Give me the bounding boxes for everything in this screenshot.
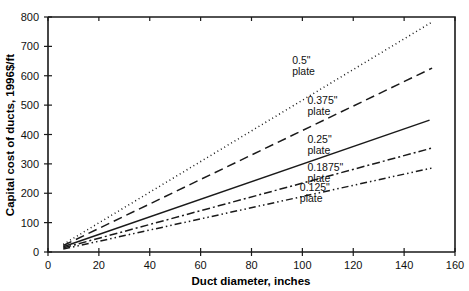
y-tick-label-600: 600 <box>21 70 39 82</box>
x-axis-title: Duct diameter, inches <box>192 275 311 287</box>
series-line-1 <box>63 68 432 245</box>
series-label-0-line-1: plate <box>292 65 315 77</box>
series-line-3 <box>63 148 432 248</box>
x-tick-label-100: 100 <box>293 259 311 271</box>
x-tick-label-120: 120 <box>344 259 362 271</box>
series-label-2-line-1: plate <box>307 144 330 156</box>
y-tick-label-200: 200 <box>21 187 39 199</box>
x-tick-label-140: 140 <box>395 259 413 271</box>
y-tick-label-400: 400 <box>21 129 39 141</box>
y-axis-title: Capital cost of ducts, 1996$/ft <box>4 54 16 216</box>
y-tick-label-700: 700 <box>21 40 39 52</box>
y-tick-label-100: 100 <box>21 217 39 229</box>
series-lines <box>63 22 432 249</box>
series-labels: 0.5"plate0.375"plate0.25"plate0.1875"pla… <box>292 54 343 204</box>
y-tick-label-0: 0 <box>33 246 39 258</box>
series-line-0 <box>63 22 432 244</box>
y-tick-label-300: 300 <box>21 158 39 170</box>
y-tick-label-500: 500 <box>21 99 39 111</box>
series-label-1-line-1: plate <box>307 105 330 117</box>
x-tick-label-40: 40 <box>144 259 156 271</box>
y-tick-label-800: 800 <box>21 11 39 23</box>
series-line-2 <box>63 120 429 247</box>
x-axis-ticks: 020406080100120140160 <box>45 17 464 271</box>
x-tick-label-0: 0 <box>45 259 51 271</box>
x-tick-label-20: 20 <box>93 259 105 271</box>
x-tick-label-160: 160 <box>446 259 464 271</box>
chart-container: 020406080100120140160 010020030040050060… <box>0 0 469 291</box>
series-label-4-line-1: plate <box>300 192 323 204</box>
series-line-4 <box>63 168 432 249</box>
x-tick-label-60: 60 <box>195 259 207 271</box>
x-tick-label-80: 80 <box>245 259 257 271</box>
plot-frame <box>48 17 455 252</box>
axis-frame <box>48 17 455 252</box>
duct-cost-line-chart: 020406080100120140160 010020030040050060… <box>0 0 469 291</box>
